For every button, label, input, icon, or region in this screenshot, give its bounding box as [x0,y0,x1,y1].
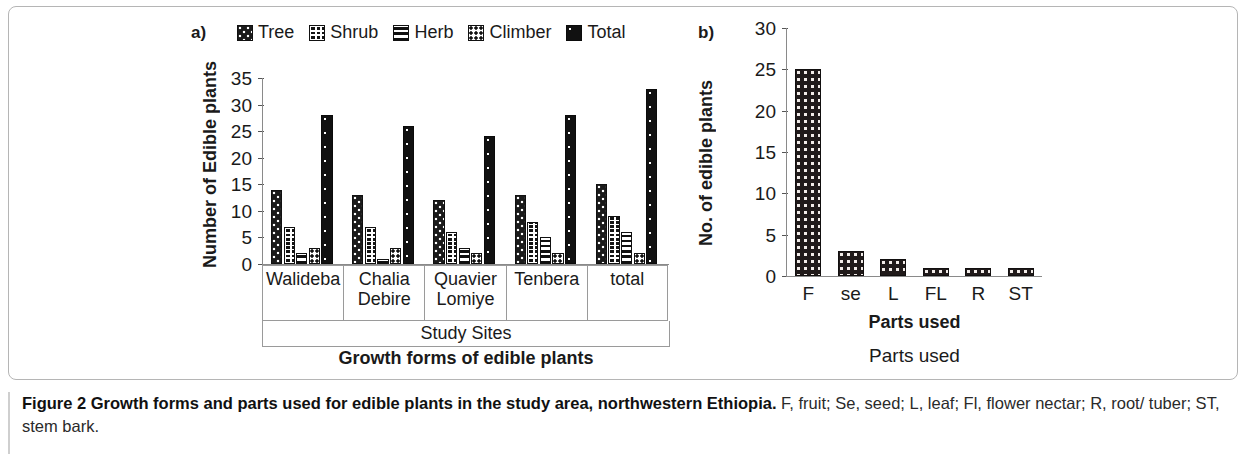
legend-item-total: Total [566,22,625,43]
y-tick-label: 20 [736,101,776,120]
legend-item-shrub: Shrub [309,22,378,43]
y-tick-label: 5 [212,228,252,247]
legend-item-tree: Tree [237,22,294,43]
bar-total-total [646,89,657,264]
panel-b-y-axis-title: No. of edible plants [696,58,717,268]
panel-a-study-sites-band: Study Sites [262,321,670,347]
y-tick-label: 5 [736,225,776,244]
panel-a-tag: a) [191,23,206,43]
panel-b-x-axis-title: Parts used [787,312,1042,333]
x-tick-label-se: se [830,283,873,305]
legend-swatch-climber-icon [468,25,484,41]
bar-total-chalia-debire [403,126,414,264]
legend-swatch-shrub-icon [309,25,325,41]
panel-a-x-axis-title: Growth forms of edible plants [262,348,670,369]
panel-a-category-labels: WalidebaChalia DebireQuavier LomiyeTenbe… [262,265,670,321]
y-tick-label: 35 [212,69,252,88]
x-tick-label-l: L [872,283,915,305]
legend-label: Shrub [330,22,378,43]
legend-swatch-herb-icon [393,25,409,41]
bar-climber-quavier-lomiye [471,253,482,264]
bar-shrub-tenbera [527,222,538,265]
figure-caption: Figure 2 Growth forms and parts used for… [22,392,1238,439]
bar-tree-total [596,184,607,264]
bar-parts-f [795,69,821,276]
legend-swatch-total-icon [566,25,582,41]
y-tick-label: 15 [736,143,776,162]
bar-parts-se [838,251,864,276]
y-tick-label: 30 [212,95,252,114]
y-tick-label: 25 [212,122,252,141]
category-label-total: total [587,265,668,321]
x-tick-label-f: F [787,283,830,305]
bar-parts-r [965,268,991,276]
legend-label: Total [587,22,625,43]
bar-tree-walideba [271,190,282,264]
bar-shrub-walideba [284,227,295,264]
category-label-walideba: Walideba [262,265,343,321]
panel-b-plot-area [787,28,1042,276]
panel-a-plot-area [263,78,669,264]
category-label-tenbera: Tenbera [506,265,587,321]
caption-accent-rule [8,392,10,454]
bar-climber-chalia-debire [390,248,401,264]
y-tick-label: 20 [212,148,252,167]
bar-climber-tenbera [552,253,563,264]
bar-herb-chalia-debire [377,259,388,264]
panel-a-growth-forms: a) TreeShrubHerbClimberTotal Number of E… [0,0,690,380]
y-tick-label: 0 [212,255,252,274]
bar-shrub-chalia-debire [365,227,376,264]
bar-total-quavier-lomiye [484,136,495,264]
bar-parts-st [1008,268,1034,276]
legend-item-herb: Herb [393,22,453,43]
legend-swatch-tree-icon [237,25,253,41]
category-label-chalia-debire: Chalia Debire [343,265,424,321]
x-tick-label-st: ST [1000,283,1043,305]
figure-caption-title: Figure 2 Growth forms and parts used for… [22,394,777,412]
legend-item-climber: Climber [468,22,551,43]
y-tick-label: 15 [212,175,252,194]
legend-label: Climber [489,22,551,43]
bar-parts-fl [923,268,949,276]
bar-parts-l [880,259,906,276]
bar-tree-chalia-debire [352,195,363,264]
y-tick-label: 25 [736,60,776,79]
panel-b-parts-used: b) No. of edible plants 051015202530 Fse… [690,0,1246,380]
panel-b-tag: b) [698,23,714,43]
legend-label: Herb [414,22,453,43]
y-tick-label: 10 [212,201,252,220]
legend-label: Tree [258,22,294,43]
bar-climber-walideba [309,248,320,264]
bar-herb-total [621,232,632,264]
x-tick-label-r: R [957,283,1000,305]
y-tick-label: 30 [736,19,776,38]
x-tick-label-fl: FL [915,283,958,305]
category-label-quavier-lomiye: Quavier Lomiye [424,265,505,321]
bar-total-walideba [321,115,332,264]
bar-tree-tenbera [515,195,526,264]
bar-total-tenbera [565,115,576,264]
bar-herb-walideba [296,253,307,264]
bar-herb-quavier-lomiye [459,248,470,264]
panel-b-x-axis-subtitle: Parts used [767,345,1062,367]
y-tick-label: 10 [736,184,776,203]
bar-herb-tenbera [540,237,551,264]
legend-growth-forms: TreeShrubHerbClimberTotal [237,22,625,43]
bar-tree-quavier-lomiye [433,200,444,264]
bar-shrub-total [608,216,619,264]
panel-b-x-axis-line [786,276,1042,277]
bar-climber-total [634,253,645,264]
bar-shrub-quavier-lomiye [446,232,457,264]
y-tick-label: 0 [736,267,776,286]
